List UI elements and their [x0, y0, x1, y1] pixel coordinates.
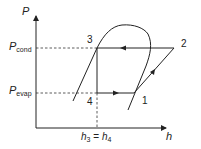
y-axis-label: P [22, 6, 29, 17]
saturation-dome [73, 25, 151, 110]
condensation-arrow-icon [120, 46, 126, 51]
state-4-label: 4 [87, 97, 93, 107]
state-2-label: 2 [181, 39, 187, 49]
x-axis-label: h [166, 131, 172, 142]
ph-diagram [0, 0, 201, 149]
evaporation-arrow-icon [113, 91, 119, 96]
pcond-label: Pcond [9, 41, 32, 53]
state-3-label: 3 [87, 35, 93, 45]
h3-equals-h4-label: h3 = h4 [81, 132, 111, 143]
state-1-label: 1 [142, 96, 148, 106]
pevap-label: Pevap [9, 85, 32, 97]
